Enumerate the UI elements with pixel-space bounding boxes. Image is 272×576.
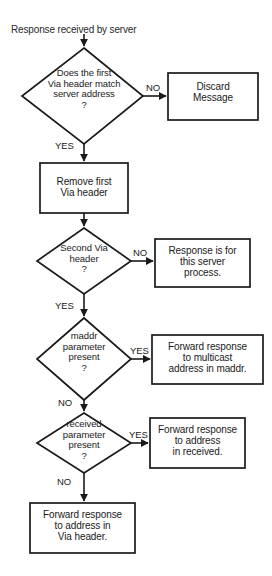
- edge-label-d1-no: NO: [146, 83, 160, 93]
- edge-label-d4-no: NO: [57, 477, 71, 487]
- start-label: Response received by server: [11, 25, 136, 35]
- decision-received-shape: [37, 413, 131, 473]
- edge-label-d2-no: NO: [133, 248, 147, 258]
- edge-label-d4-yes: YES: [129, 430, 148, 440]
- decision-second-via-shape: [37, 228, 131, 294]
- process-discard-message-shape: [168, 73, 258, 120]
- process-forward-via-header-shape: [30, 503, 135, 553]
- decision-maddr-shape: [37, 318, 131, 400]
- edge-label-d1-yes: YES: [55, 141, 74, 151]
- process-forward-received-shape: [150, 418, 245, 468]
- flowchart-canvas: Response received by server Does the fir…: [0, 0, 272, 576]
- edge-label-d2-yes: YES: [55, 301, 74, 311]
- edge-label-d3-yes: YES: [130, 346, 149, 356]
- process-response-for-server-shape: [155, 239, 250, 287]
- edge-label-d3-no: NO: [58, 398, 72, 408]
- decision-first-via-shape: [22, 48, 143, 144]
- process-forward-multicast-shape: [152, 335, 263, 384]
- flowchart-graphics: [0, 0, 272, 576]
- process-remove-first-via-shape: [40, 163, 128, 213]
